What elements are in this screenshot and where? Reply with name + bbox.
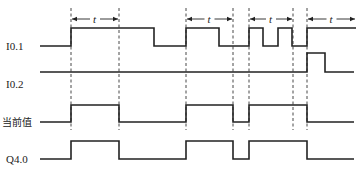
signal-label-current: 当前值 bbox=[2, 116, 32, 128]
arrow-left-icon bbox=[187, 17, 192, 21]
arrow-left-icon bbox=[250, 17, 255, 21]
arrow-right-icon bbox=[287, 17, 292, 21]
waveform-i02 bbox=[40, 53, 354, 72]
waveform-q40 bbox=[40, 141, 354, 159]
timing-diagram: tttt I0.1 I0.2 当前值 Q4.0 bbox=[0, 0, 364, 177]
waveform-i01 bbox=[40, 28, 356, 46]
dashed-guide-lines bbox=[71, 8, 307, 130]
arrow-right-icon bbox=[227, 17, 232, 21]
arrow-right-icon bbox=[113, 17, 118, 21]
interval-markers: tttt bbox=[72, 13, 355, 25]
signal-label-i01: I0.1 bbox=[6, 40, 23, 52]
arrow-left-icon bbox=[72, 17, 77, 21]
interval-t: t bbox=[308, 13, 355, 25]
arrow-right-icon bbox=[350, 17, 355, 21]
waveform-current bbox=[40, 105, 354, 122]
signal-waveforms bbox=[40, 28, 356, 159]
interval-t: t bbox=[187, 13, 232, 25]
signal-label-i02: I0.2 bbox=[6, 78, 23, 90]
interval-label: t bbox=[269, 13, 273, 25]
arrow-left-icon bbox=[308, 17, 313, 21]
signal-labels: I0.1 I0.2 当前值 Q4.0 bbox=[2, 40, 32, 165]
signal-label-q40: Q4.0 bbox=[6, 153, 28, 165]
interval-label: t bbox=[93, 13, 97, 25]
interval-label: t bbox=[208, 13, 212, 25]
interval-t: t bbox=[250, 13, 292, 25]
interval-t: t bbox=[72, 13, 118, 25]
interval-label: t bbox=[330, 13, 334, 25]
